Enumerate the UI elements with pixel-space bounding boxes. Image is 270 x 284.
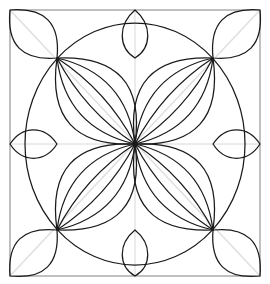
geometric-pattern-figure (0, 0, 270, 284)
